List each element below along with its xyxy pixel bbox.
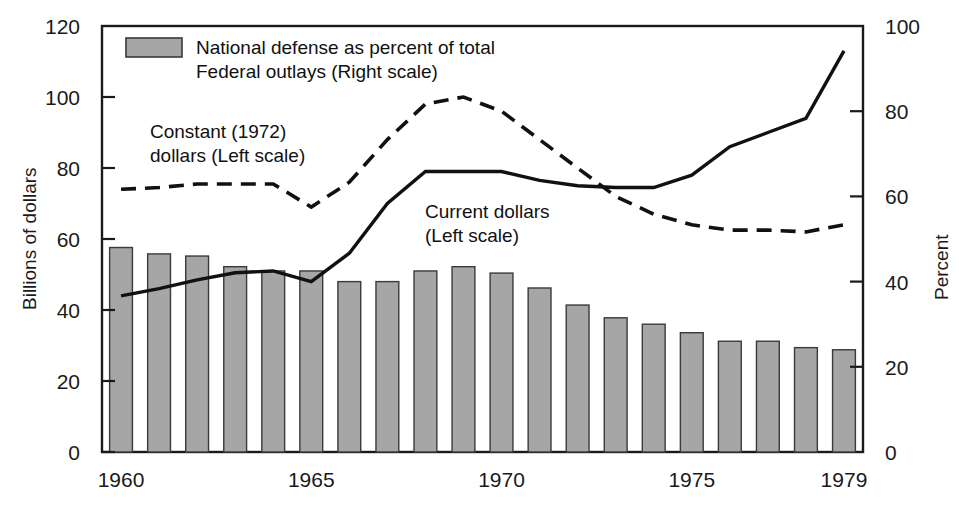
legend-swatch-national-defense	[126, 38, 182, 57]
bar-1979	[833, 350, 856, 452]
current-dollars-line	[121, 51, 844, 296]
x-tick-label-1979: 1979	[821, 468, 868, 491]
bar-1971	[528, 288, 551, 452]
right-tick-label-80: 80	[885, 100, 908, 123]
left-tick-label-40: 40	[57, 299, 80, 322]
bar-1974	[642, 324, 665, 452]
legend: National defense as percent of total Fed…	[126, 37, 495, 82]
left-tick-label-60: 60	[57, 228, 80, 251]
bar-1976	[718, 341, 741, 452]
chart-figure: 020406080100120 020406080100 19601965197…	[0, 0, 964, 512]
bar-1960	[110, 248, 133, 452]
bar-1977	[756, 341, 779, 452]
x-tick-label-1965: 1965	[288, 468, 335, 491]
legend-label-line2: Federal outlays (Right scale)	[196, 61, 438, 82]
right-axis-ticks: 020406080100	[850, 15, 920, 464]
annotation-constant-line1: Constant (1972)	[150, 121, 286, 142]
x-tick-label-1975: 1975	[668, 468, 715, 491]
bar-1966	[338, 282, 361, 452]
right-axis-title: Percent	[931, 234, 952, 300]
bar-1961	[148, 254, 171, 452]
bar-1969	[452, 267, 475, 452]
right-tick-label-20: 20	[885, 356, 908, 379]
bar-1972	[566, 305, 589, 452]
left-tick-label-0: 0	[68, 441, 80, 464]
left-tick-label-80: 80	[57, 157, 80, 180]
annotation-constant-dollars: Constant (1972) dollars (Left scale)	[150, 121, 305, 166]
right-tick-label-60: 60	[885, 185, 908, 208]
annotation-current-line2: (Left scale)	[425, 225, 519, 246]
bar-1965	[300, 271, 323, 452]
bar-1962	[186, 256, 209, 452]
right-tick-label-40: 40	[885, 271, 908, 294]
bar-1970	[490, 273, 513, 452]
left-tick-label-100: 100	[45, 86, 80, 109]
bar-1967	[376, 282, 399, 452]
left-axis-ticks: 020406080100120	[45, 15, 115, 464]
annotation-constant-line2: dollars (Left scale)	[150, 145, 305, 166]
left-tick-label-20: 20	[57, 370, 80, 393]
bar-1964	[262, 271, 285, 452]
left-tick-label-120: 120	[45, 15, 80, 38]
chart-canvas: 020406080100120 020406080100 19601965197…	[0, 0, 964, 512]
bar-1978	[795, 348, 818, 452]
bar-1975	[680, 333, 703, 452]
left-axis-title: Billions of dollars	[19, 167, 40, 310]
x-axis-ticks: 19601965197019751979	[98, 468, 868, 491]
annotation-current-line1: Current dollars	[425, 201, 550, 222]
right-tick-label-0: 0	[885, 441, 897, 464]
bar-1968	[414, 271, 437, 452]
legend-label-line1: National defense as percent of total	[196, 37, 495, 58]
bar-series	[110, 248, 856, 452]
bar-1963	[224, 267, 247, 452]
bar-1973	[604, 318, 627, 452]
x-tick-label-1970: 1970	[478, 468, 525, 491]
x-tick-label-1960: 1960	[98, 468, 145, 491]
right-tick-label-100: 100	[885, 15, 920, 38]
annotation-current-dollars: Current dollars (Left scale)	[425, 201, 550, 246]
